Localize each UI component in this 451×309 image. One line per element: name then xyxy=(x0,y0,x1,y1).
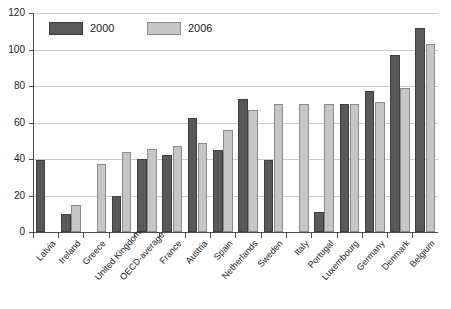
bar-2006-austria xyxy=(198,143,208,232)
bar-2000-luxembourg xyxy=(340,104,350,232)
x-axis-tick xyxy=(83,233,84,238)
y-axis-label: 40 xyxy=(0,154,25,164)
bar-2006-greece xyxy=(97,164,107,232)
legend-swatch-2006 xyxy=(147,22,181,35)
y-axis-label: 0 xyxy=(0,227,25,237)
x-axis-tick xyxy=(159,233,160,238)
bar-2000-ireland xyxy=(61,214,71,232)
bar-2006-portugal xyxy=(324,104,334,232)
bar-2000-france xyxy=(162,155,172,232)
bar-2006-sweden xyxy=(274,104,284,232)
bar-2006-oecd-average xyxy=(147,149,157,232)
bar-2006-denmark xyxy=(400,88,410,232)
bar-2006-belgium xyxy=(426,44,436,232)
y-axis-label: 100 xyxy=(0,45,25,55)
x-axis-tick xyxy=(311,233,312,238)
y-axis-label: 120 xyxy=(0,8,25,18)
bar-2000-portugal xyxy=(314,212,324,232)
bar-2000-germany xyxy=(365,91,375,232)
bar-2000-denmark xyxy=(390,55,400,232)
bar-chart: 020406080100120LatviaIrelandGreeceUnited… xyxy=(0,0,451,309)
bar-2006-germany xyxy=(375,102,385,232)
legend-label-2006: 2006 xyxy=(188,22,212,35)
y-axis-line xyxy=(33,13,34,233)
bar-2000-belgium xyxy=(415,28,425,232)
x-axis-tick xyxy=(210,233,211,238)
bar-2006-netherlands xyxy=(248,110,258,232)
y-axis-label: 20 xyxy=(0,191,25,201)
bar-2006-italy xyxy=(299,104,309,232)
x-axis-tick xyxy=(261,233,262,238)
x-axis-tick xyxy=(235,233,236,238)
x-axis-tick xyxy=(109,233,110,238)
bar-2000-austria xyxy=(188,118,198,232)
bar-2006-france xyxy=(173,146,183,232)
bar-2006-ireland xyxy=(71,205,81,232)
x-axis-tick xyxy=(387,233,388,238)
x-axis-tick xyxy=(185,233,186,238)
bar-2000-netherlands xyxy=(238,99,248,232)
y-axis-label: 60 xyxy=(0,118,25,128)
x-axis-tick xyxy=(58,233,59,238)
x-axis-tick xyxy=(412,233,413,238)
gridline xyxy=(33,86,438,87)
x-axis-tick xyxy=(134,233,135,238)
bar-2000-oecd-average xyxy=(137,159,147,232)
bar-2000-united-kingdom xyxy=(112,196,122,232)
bar-2006-united-kingdom xyxy=(122,152,132,232)
bar-2000-latvia xyxy=(36,160,46,232)
y-axis-label: 80 xyxy=(0,81,25,91)
legend-label-2000: 2000 xyxy=(90,22,114,35)
bar-2006-spain xyxy=(223,130,233,232)
x-axis-tick xyxy=(33,233,34,238)
bar-2006-luxembourg xyxy=(350,104,360,232)
legend-swatch-2000 xyxy=(49,22,83,35)
x-axis-tick xyxy=(337,233,338,238)
x-axis-tick xyxy=(286,233,287,238)
bar-2000-sweden xyxy=(264,160,274,232)
x-axis-tick xyxy=(362,233,363,238)
gridline xyxy=(33,13,438,14)
gridline xyxy=(33,50,438,51)
bar-2000-spain xyxy=(213,150,223,232)
